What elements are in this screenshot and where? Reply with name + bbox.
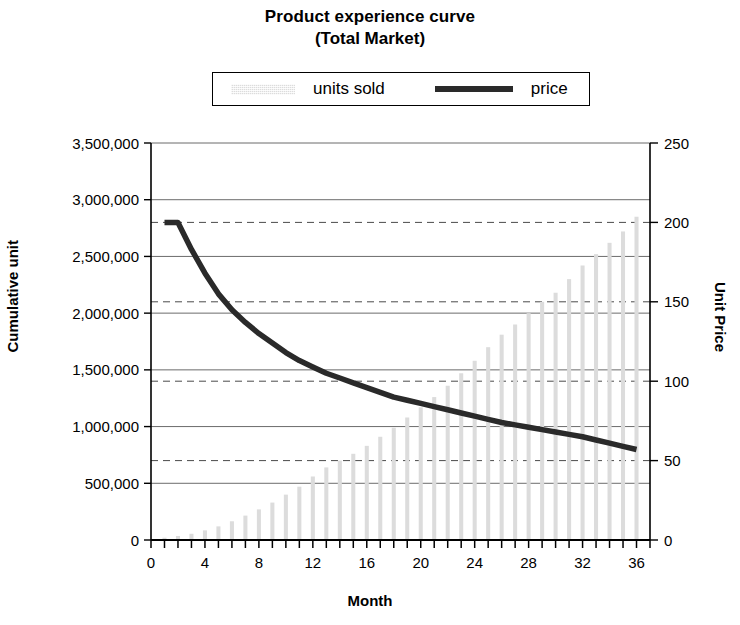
- bar: [203, 530, 207, 540]
- y-tick-label-left: 0: [131, 532, 139, 549]
- bar: [311, 476, 315, 540]
- bar: [297, 487, 301, 540]
- bar: [554, 293, 558, 540]
- x-tick-label: 36: [628, 554, 645, 571]
- bar: [351, 454, 355, 540]
- x-tick-label: 0: [147, 554, 155, 571]
- x-tick-label: 8: [255, 554, 263, 571]
- bar: [567, 279, 571, 540]
- y-tick-label-left: 1,000,000: [72, 418, 139, 435]
- bar: [230, 521, 234, 540]
- bar: [378, 437, 382, 540]
- bar: [634, 217, 638, 540]
- x-tick-label: 28: [520, 554, 537, 571]
- x-tick-label: 24: [466, 554, 483, 571]
- x-tick-label: 16: [358, 554, 375, 571]
- bar: [540, 302, 544, 540]
- bar: [594, 254, 598, 540]
- y-tick-label-left: 3,500,000: [72, 135, 139, 152]
- y-tick-label-right: 200: [664, 214, 689, 231]
- bar: [608, 243, 612, 540]
- y-tick-label-left: 1,500,000: [72, 361, 139, 378]
- bar: [581, 266, 585, 541]
- bar: [486, 347, 490, 540]
- bar: [243, 516, 247, 540]
- x-tick-label: 20: [412, 554, 429, 571]
- bar: [500, 335, 504, 540]
- y-tick-label-left: 2,500,000: [72, 248, 139, 265]
- y-tick-label-right: 0: [664, 532, 672, 549]
- bar: [257, 509, 261, 540]
- bar: [365, 446, 369, 540]
- bar: [473, 361, 477, 540]
- bar: [432, 397, 436, 540]
- bar: [459, 373, 463, 540]
- y-tick-label-right: 50: [664, 452, 681, 469]
- bar: [405, 418, 409, 541]
- y-tick-label-right: 250: [664, 135, 689, 152]
- bar: [324, 467, 328, 540]
- chart-container: Product experience curve (Total Market) …: [0, 0, 740, 625]
- bar-series-units-sold: [162, 217, 638, 540]
- bar: [216, 526, 220, 540]
- x-tick-label: 12: [304, 554, 321, 571]
- plot-area: 0500,0001,000,0001,500,0002,000,0002,500…: [0, 0, 740, 625]
- bar: [419, 407, 423, 540]
- y-tick-label-right: 150: [664, 293, 689, 310]
- y-tick-label-left: 3,000,000: [72, 191, 139, 208]
- bar: [338, 461, 342, 540]
- x-tick-label: 4: [201, 554, 209, 571]
- y-tick-label-left: 500,000: [85, 475, 139, 492]
- x-tick-label: 32: [574, 554, 591, 571]
- y-tick-label-right: 100: [664, 373, 689, 390]
- bar: [621, 231, 625, 540]
- bar: [284, 495, 288, 540]
- bar: [189, 534, 193, 540]
- bar: [392, 428, 396, 540]
- bar: [270, 503, 274, 540]
- bar: [513, 324, 517, 540]
- y-tick-label-left: 2,000,000: [72, 305, 139, 322]
